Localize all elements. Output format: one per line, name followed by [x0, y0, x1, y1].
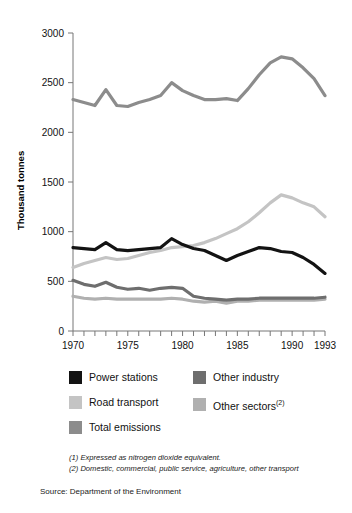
- chart-series: [73, 57, 325, 303]
- chart-footnotes: (1) Expressed as nitrogen dioxide equiva…: [69, 452, 349, 474]
- legend-item-other-sectors[interactable]: Other sectors(2): [193, 396, 285, 413]
- legend-swatch-other-sectors: [193, 398, 206, 411]
- chart-source: Source: Department of the Environment: [40, 487, 181, 496]
- legend-swatch-road-transport: [69, 396, 82, 409]
- svg-text:1980: 1980: [171, 340, 194, 351]
- svg-text:1000: 1000: [42, 226, 65, 237]
- svg-text:2500: 2500: [42, 77, 65, 88]
- chart-axes: 0500100015002000250030001970197519801985…: [42, 28, 337, 352]
- legend-label-road-transport: Road transport: [89, 396, 158, 409]
- legend-label-total-emissions: Total emissions: [89, 421, 161, 434]
- svg-text:1975: 1975: [117, 340, 140, 351]
- legend-label-other-sectors: Other sectors(2): [213, 396, 285, 413]
- legend-swatch-power-stations: [69, 371, 82, 384]
- svg-text:1970: 1970: [62, 340, 85, 351]
- svg-text:1500: 1500: [42, 177, 65, 188]
- y-axis-label: Thousand tonnes: [15, 151, 26, 230]
- legend-item-other-industry[interactable]: Other industry: [193, 371, 279, 384]
- legend-footnote-marker: (2): [276, 399, 285, 406]
- svg-text:1985: 1985: [226, 340, 249, 351]
- svg-text:1990: 1990: [281, 340, 304, 351]
- svg-text:2000: 2000: [42, 127, 65, 138]
- legend-item-total-emissions[interactable]: Total emissions: [69, 421, 161, 434]
- svg-text:3000: 3000: [42, 28, 65, 39]
- legend-swatch-other-industry: [193, 371, 206, 384]
- emissions-chart-figure: 0500100015002000250030001970197519801985…: [0, 0, 352, 513]
- svg-text:500: 500: [47, 276, 64, 287]
- line-chart: 0500100015002000250030001970197519801985…: [0, 0, 352, 370]
- y-axis-title: Thousand tonnes: [15, 151, 26, 230]
- svg-text:1993: 1993: [314, 340, 337, 351]
- legend-item-power-stations[interactable]: Power stations: [69, 371, 158, 384]
- footnote-2: (2) Domestic, commercial, public service…: [69, 463, 349, 474]
- svg-text:0: 0: [58, 326, 64, 337]
- footnote-1: (1) Expressed as nitrogen dioxide equiva…: [69, 452, 349, 463]
- legend-item-road-transport[interactable]: Road transport: [69, 396, 158, 409]
- legend-label-power-stations: Power stations: [89, 371, 158, 384]
- legend-label-other-industry: Other industry: [213, 371, 279, 384]
- legend-swatch-total-emissions: [69, 421, 82, 434]
